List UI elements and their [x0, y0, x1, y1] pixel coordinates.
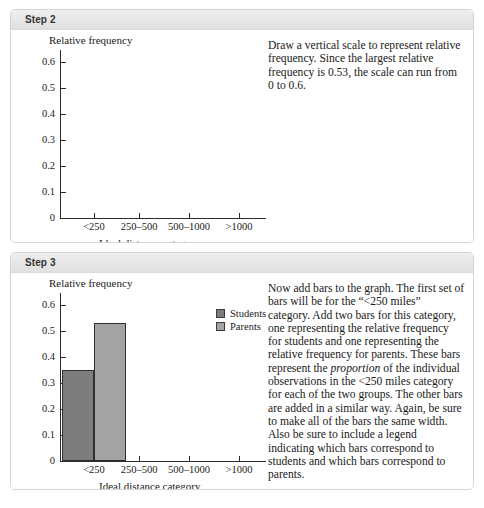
step-2-ytick-mark-0.3	[61, 140, 66, 141]
step-2-header: Step 2	[11, 10, 473, 30]
step-2-ytick-label-0.1: 0.1	[25, 186, 55, 197]
step-2-xtick-label-3: 500–1000	[157, 221, 221, 232]
bar-students-lt250	[62, 370, 94, 461]
step-2-ytick-mark-0.1	[61, 192, 66, 193]
step-3-xtick-label-3: 500–1000	[157, 464, 221, 475]
step-2-panel: Step 2 Relative frequency 0.6 0.5 0.4	[10, 9, 474, 243]
step-2-xtick-mark-4	[239, 213, 240, 218]
step-2-ytick-label-0.5: 0.5	[25, 82, 55, 93]
step-3-y-axis-title: Relative frequency	[49, 277, 132, 289]
step-3-instruction-text: Now add bars to the graph. The first set…	[266, 273, 473, 489]
step-2-xtick-mark-3	[189, 213, 190, 218]
step-2-xtick-label-4: >1000	[213, 221, 265, 232]
step-2-y-axis-title: Relative frequency	[49, 34, 132, 46]
legend-entry-parents: Parents	[216, 320, 266, 332]
step-3-x-axis-line	[60, 461, 266, 462]
step-2-ytick-label-0: 0	[25, 212, 55, 223]
step-2-ytick-label-0.2: 0.2	[25, 160, 55, 171]
step-3-xtick-label-4: >1000	[213, 464, 265, 475]
step-3-ytick-mark-0.6	[61, 305, 66, 306]
step-3-ytick-mark-0.5	[61, 331, 66, 332]
step-2-xtick-mark-2	[139, 213, 140, 218]
step-2-x-axis-line	[60, 218, 266, 219]
chart-legend: Students Parents	[216, 307, 266, 333]
legend-swatch-students-icon	[216, 309, 225, 318]
step-3-ytick-label-0: 0	[25, 455, 55, 466]
step-3-x-axis-title: Ideal distance category	[99, 480, 200, 490]
step-2-ytick-label-0.4: 0.4	[25, 108, 55, 119]
legend-label-parents: Parents	[230, 321, 261, 332]
step-2-chart: Relative frequency 0.6 0.5 0.4 0.3 0.2	[11, 30, 266, 242]
step-2-instruction-text: Draw a vertical scale to represent relat…	[266, 30, 473, 100]
step-2-ytick-mark-0.4	[61, 114, 66, 115]
step-3-xtick-mark-2	[139, 456, 140, 461]
step-3-ytick-label-0.5: 0.5	[25, 325, 55, 336]
step-2-body: Relative frequency 0.6 0.5 0.4 0.3 0.2	[11, 30, 473, 242]
step-2-ytick-label-0.6: 0.6	[25, 56, 55, 67]
step-3-ytick-label-0.4: 0.4	[25, 351, 55, 362]
step-3-xtick-mark-4	[239, 456, 240, 461]
step-3-panel: Step 3 Relative frequency 0.6 0.5 0.4 0.…	[10, 252, 474, 490]
step-3-figure-column: Relative frequency 0.6 0.5 0.4 0.3 0.2 0…	[11, 273, 266, 485]
worked-example-page: Step 2 Relative frequency 0.6 0.5 0.4	[0, 0, 484, 508]
legend-entry-students: Students	[216, 307, 266, 319]
step-2-figure-column: Relative frequency 0.6 0.5 0.4 0.3 0.2	[11, 30, 266, 242]
step-2-ytick-mark-0.5	[61, 88, 66, 89]
step-2-x-axis-title: Ideal distance category	[99, 237, 200, 243]
step-3-text-part-2: of the individual observations in the <2…	[268, 362, 463, 481]
step-2-xtick-mark-1	[94, 213, 95, 218]
step-3-ytick-label-0.1: 0.1	[25, 429, 55, 440]
step-2-ytick-mark-0.6	[61, 62, 66, 63]
legend-label-students: Students	[230, 308, 266, 319]
step-3-ytick-label-0.3: 0.3	[25, 377, 55, 388]
step-3-xtick-mark-3	[189, 456, 190, 461]
step-3-chart: Relative frequency 0.6 0.5 0.4 0.3 0.2 0…	[11, 273, 266, 485]
step-3-text-emphasis: proportion	[330, 362, 380, 375]
step-3-ytick-mark-0.4	[61, 357, 66, 358]
step-3-xtick-mark-1	[94, 456, 95, 461]
step-3-body: Relative frequency 0.6 0.5 0.4 0.3 0.2 0…	[11, 273, 473, 489]
step-3-header: Step 3	[11, 253, 473, 273]
step-3-ytick-label-0.6: 0.6	[25, 299, 55, 310]
step-3-ytick-label-0.2: 0.2	[25, 403, 55, 414]
bar-parents-lt250	[94, 323, 126, 461]
legend-swatch-parents-icon	[216, 322, 225, 331]
step-2-ytick-mark-0.2	[61, 166, 66, 167]
step-2-ytick-label-0.3: 0.3	[25, 134, 55, 145]
